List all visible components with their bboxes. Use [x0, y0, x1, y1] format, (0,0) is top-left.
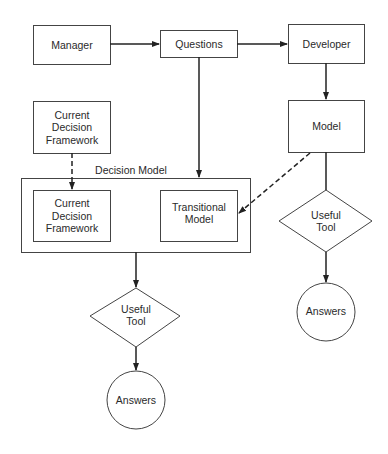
edge-dashed-model-transitional	[239, 153, 310, 213]
transitional-model-label: Transitional Model	[160, 190, 238, 236]
current-framework-top-label: Current Decision Framework	[33, 101, 111, 154]
answers-left-label: Answers	[107, 393, 165, 407]
decision-model-label: Decision Model	[86, 163, 176, 177]
questions-label: Questions	[160, 30, 238, 58]
manager-label: Manager	[33, 25, 111, 65]
answers-right-label: Answers	[297, 304, 355, 318]
developer-label: Developer	[288, 24, 365, 64]
useful-tool-left-label: Useful Tool	[106, 301, 166, 329]
useful-tool-right-label: Useful Tool	[296, 207, 356, 235]
current-framework-inner-label: Current Decision Framework	[33, 190, 111, 242]
model-label: Model	[288, 100, 365, 153]
